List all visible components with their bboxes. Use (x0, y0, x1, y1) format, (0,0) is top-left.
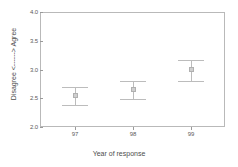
y-tick-mark (40, 127, 43, 128)
error-cap-lower (178, 81, 204, 82)
chart-container: 4.0 3.5 3.0 2.5 2.0 97 98 99 (0, 0, 238, 167)
y-tick-mark (40, 70, 43, 71)
y-tick-label: 3.0 (30, 67, 40, 73)
plot-area (40, 12, 225, 127)
y-axis-title: Disagree <------> Agree (10, 4, 18, 124)
y-tick-label: 2.0 (30, 124, 40, 130)
mean-marker (73, 93, 78, 98)
x-tick-mark (75, 127, 76, 130)
y-tick-mark (40, 98, 43, 99)
error-cap-lower (62, 105, 88, 106)
error-cap-lower (120, 99, 146, 100)
y-tick-mark (40, 41, 43, 42)
y-tick-label: 3.5 (30, 38, 40, 44)
mean-marker (189, 67, 194, 72)
x-tick-label: 99 (188, 131, 195, 138)
x-axis-title: Year of response (0, 150, 238, 158)
x-tick-label: 98 (130, 131, 137, 138)
x-tick-mark (133, 127, 134, 130)
y-tick-label: 2.5 (30, 95, 40, 101)
y-tick-mark (40, 12, 43, 13)
mean-marker (131, 87, 136, 92)
x-tick-label: 97 (72, 131, 79, 138)
x-tick-mark (191, 127, 192, 130)
y-tick-label: 4.0 (30, 9, 40, 15)
